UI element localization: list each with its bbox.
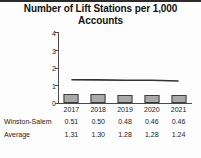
cell-average-2019: 1.28	[112, 129, 139, 140]
cell-winston-salem-2019: 0.48	[112, 116, 139, 127]
cell-winston-salem-2020: 0.46	[138, 116, 165, 127]
chart-title-line-1: Number of Lift Stations per 1,000	[6, 3, 195, 15]
cell-winston-salem-2018: 0.50	[85, 116, 112, 127]
y-axis-tick-label: 3	[44, 48, 56, 55]
line-series-average	[58, 32, 192, 103]
cell-winston-salem-2017: 0.51	[58, 116, 85, 127]
chart-title: Number of Lift Stations per 1,000 Accoun…	[6, 3, 195, 27]
cell-average-2020: 1.28	[138, 129, 165, 140]
x-axis-label-2020: 2020	[138, 105, 165, 114]
row-cells-winston-salem: 0.51 0.50 0.48 0.46 0.46	[58, 116, 192, 128]
cell-winston-salem-2021: 0.46	[165, 116, 192, 127]
table-row-average: Average 1.31 1.30 1.28 1.28 1.24	[0, 129, 201, 141]
row-cells-average: 1.31 1.30 1.28 1.28 1.24	[58, 129, 192, 141]
x-axis-tick-labels: 2017 2018 2019 2020 2021	[58, 105, 192, 115]
y-axis-tick-label: 2	[44, 65, 56, 72]
x-axis-label-2017: 2017	[58, 105, 85, 114]
plot-area: 4 3 2 1 0	[0, 30, 201, 112]
x-axis-label-2018: 2018	[85, 105, 112, 114]
cell-average-2017: 1.31	[58, 129, 85, 140]
chart-figure: Number of Lift Stations per 1,000 Accoun…	[0, 0, 201, 158]
row-label-winston-salem: Winston-Salem	[4, 116, 58, 127]
table-row-winston-salem: Winston-Salem 0.51 0.50 0.48 0.46 0.46	[0, 116, 201, 128]
cell-average-2021: 1.24	[165, 129, 192, 140]
chart-title-line-2: Accounts	[6, 15, 195, 27]
x-axis-label-2019: 2019	[112, 105, 139, 114]
x-axis-line	[58, 103, 192, 104]
average-line-path	[71, 80, 178, 81]
top-border-rule	[0, 0, 201, 2]
x-axis-label-2021: 2021	[165, 105, 192, 114]
row-label-average: Average	[4, 129, 58, 140]
data-table: Winston-Salem 0.51 0.50 0.48 0.46 0.46 A…	[0, 116, 201, 144]
cell-average-2018: 1.30	[85, 129, 112, 140]
